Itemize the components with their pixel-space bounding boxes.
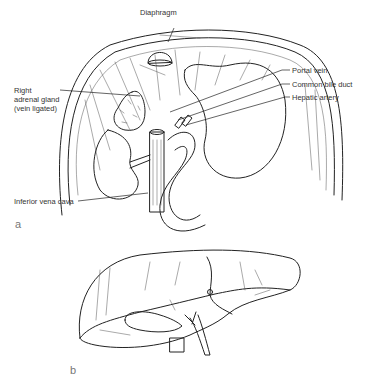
anatomical-illustration <box>0 0 366 387</box>
label-right-adrenal-gland: Right adrenal gland (vein ligated) <box>14 86 59 113</box>
label-right-adrenal-line3: (vein ligated) <box>14 104 59 113</box>
label-common-bile-duct: Common bile duct <box>292 80 352 89</box>
label-portal-vein: Portal vein <box>292 66 327 75</box>
label-diaphragm: Diaphragm <box>140 8 177 17</box>
label-right-adrenal-line2: adrenal gland <box>14 95 59 104</box>
label-hepatic-artery: Hepatic artery <box>292 93 339 102</box>
panel-b-drawing <box>79 250 300 355</box>
label-inferior-vena-cava: Inferior vena cava <box>14 197 74 206</box>
panel-label-a: a <box>15 218 21 230</box>
panel-a-drawing <box>59 28 342 231</box>
panel-label-b: b <box>70 364 76 376</box>
label-right-adrenal-line1: Right <box>14 86 59 95</box>
